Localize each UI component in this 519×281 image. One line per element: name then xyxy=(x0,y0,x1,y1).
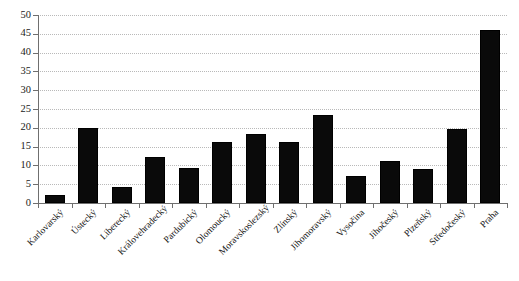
x-axis-tick xyxy=(373,203,374,208)
bar xyxy=(145,157,165,203)
x-axis-tick xyxy=(474,203,475,208)
x-axis-tick xyxy=(206,203,207,208)
bar xyxy=(179,168,199,203)
bar xyxy=(480,30,500,203)
x-axis-tick xyxy=(105,203,106,208)
bar xyxy=(112,187,132,203)
bar xyxy=(313,115,333,203)
bar-chart: 05101520253035404550 KarlovarskýÚsteckýL… xyxy=(0,0,519,281)
y-axis-tick-label: 15 xyxy=(0,141,31,152)
bar xyxy=(45,195,65,203)
x-axis-tick xyxy=(507,203,508,208)
bar xyxy=(212,142,232,203)
bar xyxy=(78,128,98,203)
x-axis-tick xyxy=(340,203,341,208)
y-axis-tick-label: 30 xyxy=(0,85,31,96)
bar xyxy=(346,176,366,203)
x-axis-tick xyxy=(172,203,173,208)
y-axis-tick-label: 0 xyxy=(0,198,31,209)
x-axis-tick xyxy=(72,203,73,208)
bar xyxy=(380,161,400,203)
y-axis-tick-label: 35 xyxy=(0,66,31,77)
y-axis-tick-label: 40 xyxy=(0,47,31,58)
y-axis-tick-label: 10 xyxy=(0,160,31,171)
x-axis-tick xyxy=(440,203,441,208)
bars-layer xyxy=(38,15,507,203)
bar xyxy=(447,129,467,203)
y-axis-tick-label: 45 xyxy=(0,28,31,39)
bar xyxy=(246,134,266,203)
y-axis-tick-label: 50 xyxy=(0,10,31,21)
x-axis-tick xyxy=(239,203,240,208)
y-axis-tick-label: 20 xyxy=(0,122,31,133)
bar xyxy=(413,169,433,203)
y-axis-tick-label: 5 xyxy=(0,179,31,190)
x-axis-tick xyxy=(38,203,39,208)
x-axis-tick xyxy=(407,203,408,208)
x-axis-tick xyxy=(273,203,274,208)
x-axis-tick xyxy=(306,203,307,208)
x-axis-tick xyxy=(139,203,140,208)
y-axis-tick-label: 25 xyxy=(0,104,31,115)
bar xyxy=(279,142,299,203)
